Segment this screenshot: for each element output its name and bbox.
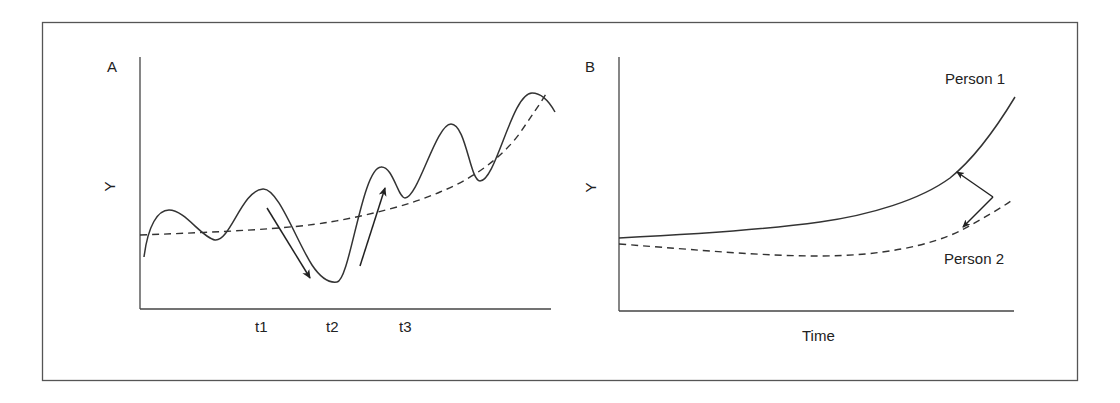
figure-graphics — [0, 0, 1120, 403]
person-2-label: Person 2 — [944, 250, 1004, 267]
panel-a-letter: A — [107, 58, 117, 75]
arrow-to-person-2 — [963, 197, 993, 227]
person-1-label: Person 1 — [945, 70, 1005, 87]
figure: A Y t1 t2 t3 B Y Person 1 Person 2 Time — [0, 0, 1120, 403]
panel-a-trend-line — [140, 94, 546, 235]
arrow-to-person-1 — [957, 172, 993, 197]
panel-a-observed-line — [144, 93, 555, 282]
panel-a-axes — [140, 57, 551, 309]
panel-b-x-axis-label: Time — [802, 327, 835, 344]
person-2-line — [619, 199, 1014, 256]
figure-frame — [43, 23, 1078, 381]
panel-b-y-axis-label: Y — [582, 182, 599, 192]
panel-b-letter: B — [585, 58, 595, 75]
tick-label-t2: t2 — [326, 318, 339, 335]
tick-label-t3: t3 — [399, 318, 412, 335]
panel-b-axes — [619, 57, 1014, 311]
panel-a-y-axis-label: Y — [101, 181, 118, 191]
person-1-line — [619, 97, 1015, 238]
tick-label-t1: t1 — [255, 318, 268, 335]
